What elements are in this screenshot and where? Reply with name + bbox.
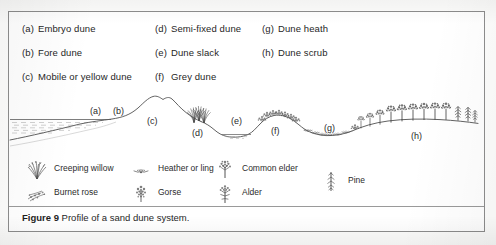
- profile-label-c: (c): [147, 116, 158, 126]
- sand-dune-profile-drawing: (a) (b) (c) (d) (e) (f) (g) (h): [8, 86, 485, 158]
- burnet-rose-icon: [24, 179, 50, 205]
- key-item-b: (b) Fore dune: [22, 47, 172, 71]
- figure-caption: Figure 9 Profile of a sand dune system.: [22, 212, 189, 223]
- key-letter-e: (e): [155, 47, 170, 58]
- profile-label-h: (h): [411, 131, 422, 141]
- plant-key-item-creeping-willow: Creeping willow: [24, 155, 114, 181]
- key-letter-f: (f): [155, 71, 170, 82]
- key-letter-g: (g): [262, 23, 277, 34]
- key-label-c: Mobile or yellow dune: [38, 71, 132, 82]
- key-item-h: (h) Dune scrub: [262, 47, 392, 71]
- plant-key-item-heather-or-ling: Heather or ling: [128, 155, 214, 181]
- plant-key-item-pine: Pine: [318, 167, 365, 193]
- profile-label-f: (f): [271, 126, 280, 136]
- key-label-b: Fore dune: [38, 47, 82, 58]
- marram-grass-tuft: [187, 106, 210, 123]
- key-label-h: Dune scrub: [278, 47, 328, 58]
- profile-label-d: (d): [192, 128, 203, 138]
- plant-key-label-burnet-rose: Burnet rose: [54, 187, 98, 197]
- plant-key-item-alder: Alder: [212, 179, 262, 205]
- pine-trees: [455, 107, 478, 123]
- key-letter-d: (d): [155, 23, 170, 34]
- key-label-a: Embryo dune: [38, 23, 96, 34]
- key-column-2: (d) Semi-fixed dune (e) Dune slack (f) G…: [155, 23, 275, 95]
- plant-species-key: Creeping willow Burnet rose: [8, 155, 485, 205]
- plant-key-label-gorse: Gorse: [158, 187, 181, 197]
- key-column-1: (a) Embryo dune (b) Fore dune (c) Mobile…: [22, 23, 172, 95]
- key-letter-b: (b): [22, 47, 37, 58]
- pine-icon: [318, 167, 344, 193]
- key-item-a: (a) Embryo dune: [22, 23, 172, 47]
- plant-key-label-creeping-willow: Creeping willow: [54, 163, 114, 173]
- plant-key-label-alder: Alder: [242, 187, 262, 197]
- alder-icon: [212, 179, 238, 205]
- profile-svg: [8, 86, 485, 158]
- heather-or-ling-icon: [128, 155, 154, 181]
- key-letter-a: (a): [22, 23, 37, 34]
- plant-key-item-gorse: Gorse: [128, 179, 181, 205]
- key-column-3: (g) Dune heath (h) Dune scrub: [262, 23, 392, 71]
- key-label-e: Dune slack: [171, 47, 219, 58]
- figure-caption-text: Profile of a sand dune system.: [59, 212, 189, 223]
- plant-key-label-common-elder: Common elder: [242, 163, 298, 173]
- profile-label-a: (a): [90, 106, 101, 116]
- beach-underline: [10, 122, 116, 146]
- key-letter-h: (h): [262, 47, 277, 58]
- plant-key-item-common-elder: Common elder: [212, 155, 298, 181]
- dune-profile-line: [10, 96, 478, 140]
- key-label-d: Semi-fixed dune: [171, 23, 241, 34]
- caption-divider: [9, 206, 484, 207]
- key-item-d: (d) Semi-fixed dune: [155, 23, 275, 47]
- profile-label-e: (e): [231, 116, 242, 126]
- figure-caption-label: Figure 9: [22, 212, 59, 223]
- key-letter-c: (c): [22, 71, 37, 82]
- plant-key-item-burnet-rose: Burnet rose: [24, 179, 98, 205]
- figure-page: (a) Embryo dune (b) Fore dune (c) Mobile…: [0, 0, 496, 245]
- common-elder-icon: [212, 155, 238, 181]
- profile-label-b: (b): [113, 106, 124, 116]
- gorse-icon: [128, 179, 154, 205]
- key-item-e: (e) Dune slack: [155, 47, 275, 71]
- key-label-g: Dune heath: [278, 23, 328, 34]
- plant-key-label-heather-or-ling: Heather or ling: [158, 163, 214, 173]
- key-label-f: Grey dune: [171, 71, 216, 82]
- creeping-willow-icon: [24, 155, 50, 181]
- key-item-g: (g) Dune heath: [262, 23, 392, 47]
- plant-key-label-pine: Pine: [348, 175, 365, 185]
- dune-zone-key: (a) Embryo dune (b) Fore dune (c) Mobile…: [8, 11, 485, 91]
- profile-label-g: (g): [324, 123, 335, 133]
